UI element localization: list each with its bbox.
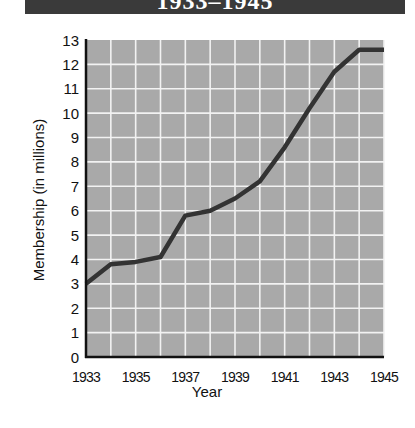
y-axis-ticks: 012345678910111213 [62, 32, 79, 366]
y-tick-label: 13 [62, 32, 79, 49]
y-tick-label: 2 [71, 300, 79, 317]
x-tick-label: 1933 [72, 369, 101, 385]
y-tick-label: 1 [71, 324, 79, 341]
x-axis-ticks: 1933193519371939194119431945 [72, 369, 399, 385]
y-tick-label: 4 [71, 251, 79, 268]
y-tick-label: 3 [71, 275, 79, 292]
x-tick-label: 1941 [271, 369, 300, 385]
y-tick-label: 8 [71, 153, 79, 170]
y-tick-label: 11 [63, 80, 79, 97]
x-tick-label: 1939 [221, 369, 250, 385]
x-tick-label: 1943 [320, 369, 349, 385]
membership-line-chart: 012345678910111213 193319351937193919411… [0, 0, 415, 428]
x-axis-label: Year [192, 383, 222, 400]
y-axis-label: Membership (in millions) [30, 119, 47, 282]
x-tick-label: 1935 [122, 369, 151, 385]
y-tick-label: 9 [71, 129, 79, 146]
y-tick-label: 10 [62, 105, 79, 122]
x-tick-label: 1945 [370, 369, 399, 385]
y-tick-label: 5 [71, 227, 79, 244]
y-tick-label: 7 [71, 178, 79, 195]
y-tick-label: 6 [71, 202, 79, 219]
y-tick-label: 12 [62, 56, 79, 73]
y-tick-label: 0 [71, 349, 79, 366]
